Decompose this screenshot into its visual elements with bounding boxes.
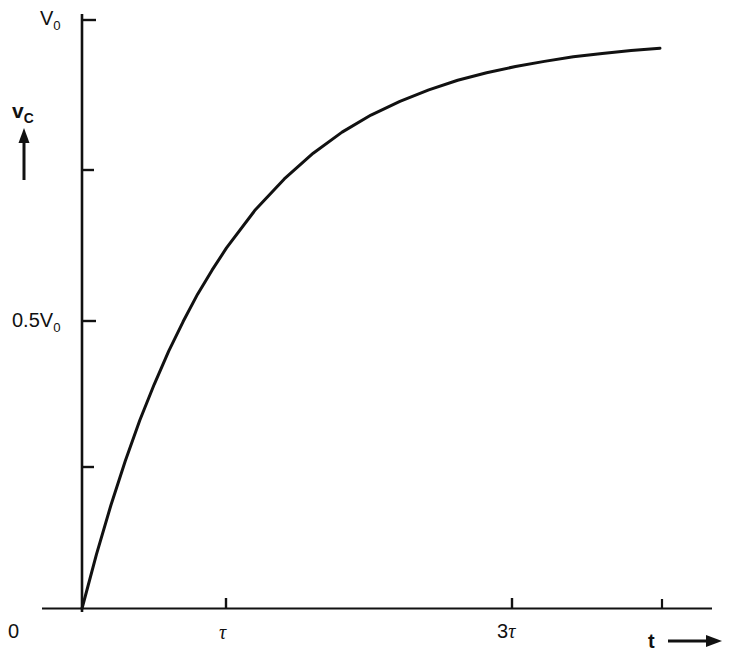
y-axis-half-label-base: 0.5V [12,309,53,331]
origin-label: 0 [8,621,19,641]
y-axis-max-label-sub: 0 [53,18,60,33]
x-axis-title: t [648,631,655,651]
y-axis-title-base: v [12,99,24,122]
x-tick-label-tau: τ [219,622,226,642]
y-axis-max-label-base: V [40,7,53,29]
y-axis-half-label-sub: 0 [53,320,60,335]
x-tick-label-three-tau: 3τ [497,621,515,641]
x-tick-label-three-tau-tau: τ [508,620,515,642]
x-axis-arrow-icon [668,635,722,647]
x-tick-label-three-tau-num: 3 [497,620,508,642]
charging-curve [82,48,660,608]
plot-area [0,0,735,665]
y-axis-half-label: 0.5V0 [12,310,61,334]
y-axis-title: vC [12,100,34,126]
y-axis-title-sub: C [24,110,34,126]
y-axis-max-label: V0 [40,8,61,32]
chart-figure: V0 0.5V0 vC 0 τ 3τ t [0,0,735,665]
y-axis-arrow-icon [19,128,30,180]
